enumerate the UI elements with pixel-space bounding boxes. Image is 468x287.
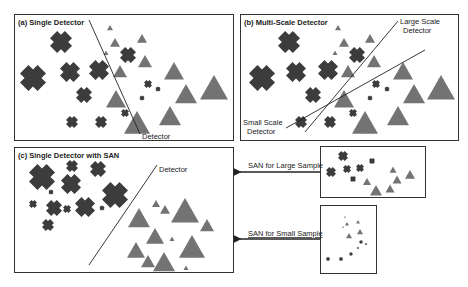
panel-b: (b) Multi-Scale Detector — [241, 15, 459, 141]
arrow-san-small: SAN for Small Sample — [240, 229, 323, 239]
triangles — [333, 25, 456, 134]
detector-label: Detector — [159, 165, 188, 174]
small-scale-label-2: Detector — [247, 127, 276, 136]
san-small-sample — [321, 206, 377, 274]
diagram-canvas: (a) Single Detector — [0, 0, 468, 287]
crosses — [20, 31, 161, 128]
panel-a: (a) Single Detector — [15, 15, 234, 142]
small-scale-label-1: Small Scale — [243, 118, 283, 127]
triangles — [127, 198, 214, 271]
triangles — [104, 25, 229, 134]
crosses — [249, 31, 390, 128]
arrow-san-large: SAN for Large Sample — [240, 161, 323, 172]
detector-label: Detector — [142, 132, 171, 141]
panel-c: (c) Single Detector with SAN — [15, 148, 234, 273]
panel-c-title: (c) Single Detector with SAN — [18, 151, 119, 160]
san-large-label: SAN for Large Sample — [248, 161, 323, 170]
crosses — [29, 160, 128, 231]
panel-a-title: (a) Single Detector — [18, 18, 84, 27]
san-large-sample — [321, 147, 426, 198]
panel-b-title: (b) Multi-Scale Detector — [244, 18, 328, 27]
san-small-label: SAN for Small Sample — [248, 229, 323, 238]
small-scale-detector-line — [286, 50, 425, 128]
large-scale-label-1: Large Scale — [400, 17, 440, 26]
detector-line — [89, 165, 157, 265]
large-scale-label-2: Detector — [403, 26, 432, 35]
